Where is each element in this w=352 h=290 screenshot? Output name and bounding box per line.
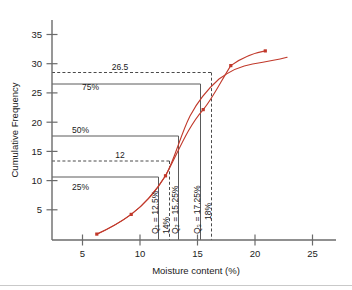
annotation-label-q1: Q₁ = 12.5% (150, 190, 160, 234)
chart-background (0, 0, 352, 290)
annotation-label-q2: Q₂ = 15.25% (170, 185, 180, 234)
y-tick-label-20: 20 (31, 117, 42, 128)
x-tick-label-25: 25 (307, 248, 318, 259)
cumulative-frequency-chart: 35 30 25 20 15 10 5 5 10 15 20 25 Moistu… (0, 0, 352, 290)
annotation-label-18pct: 18% (203, 203, 213, 220)
x-tick-label-5: 5 (80, 248, 85, 259)
annotation-label-12: 12 (115, 150, 125, 160)
y-axis-title: Cumulative Frequency (9, 82, 20, 177)
y-tick-label-5: 5 (37, 204, 42, 215)
x-tick-label-15: 15 (192, 248, 203, 259)
x-axis-title: Moisture content (%) (152, 265, 240, 276)
annotation-label-265: 26.5 (112, 62, 129, 72)
annotation-label-25pct: 25% (72, 182, 89, 192)
y-tick-label-25: 25 (31, 87, 42, 98)
y-tick-label-30: 30 (31, 58, 42, 69)
annotation-label-50pct: 50% (72, 125, 89, 135)
x-tick-label-20: 20 (250, 248, 261, 259)
annotation-label-q3: Q₃ = 17.25% (192, 185, 202, 234)
x-tick-label-10: 10 (135, 248, 146, 259)
annotation-label-75pct: 75% (82, 82, 99, 92)
y-tick-label-35: 35 (31, 29, 42, 40)
y-tick-label-15: 15 (31, 146, 42, 157)
chart-svg: 35 30 25 20 15 10 5 5 10 15 20 25 Moistu… (0, 0, 352, 290)
y-tick-label-10: 10 (31, 175, 42, 186)
